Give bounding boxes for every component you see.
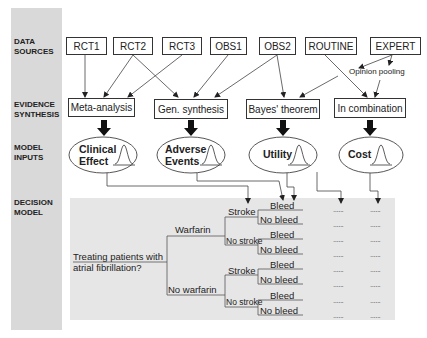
input-utility: Utility	[263, 148, 292, 160]
source-rct3: RCT3	[162, 37, 202, 55]
source-label: OBS2	[264, 41, 291, 52]
leaf-no-bleed: No bleed	[260, 274, 298, 285]
branch-stroke: Stroke	[228, 265, 255, 276]
synthesis-meta-analysis: Meta-analysis	[68, 98, 135, 117]
placeholder-cell: ......	[333, 220, 343, 229]
source-label: EXPERT	[376, 41, 416, 52]
source-label: ROUTINE	[309, 41, 354, 52]
source-label: RCT2	[120, 41, 146, 52]
synthesis-bayes-theorem: Bayes' theorem	[246, 99, 320, 119]
tree-question: Treating patients with atrial fibrillati…	[73, 251, 163, 273]
synthesis-label: In combination	[337, 103, 402, 114]
source-label: OBS1	[215, 41, 242, 52]
leaf-bleed: Bleed	[270, 290, 294, 301]
input-label: Effect	[79, 155, 116, 167]
input-label: Adverse	[165, 143, 206, 155]
input-cost: Cost	[348, 148, 371, 160]
placeholder-cell: ......	[370, 220, 380, 229]
placeholder-cell: ......	[333, 250, 343, 259]
placeholder-cell: ......	[333, 205, 343, 214]
source-rct2: RCT2	[113, 37, 153, 55]
synthesis-in-combination: In combination	[334, 98, 406, 118]
leaf-no-bleed: No bleed	[260, 214, 298, 225]
source-routine: ROUTINE	[305, 37, 357, 55]
leaf-bleed: Bleed	[270, 229, 294, 240]
placeholder-cell: ......	[370, 296, 380, 305]
branch-warfarin: Warfarin	[175, 224, 211, 235]
thick-arrows	[97, 120, 377, 136]
placeholder-cell: ......	[333, 265, 343, 274]
placeholder-cell: ......	[370, 280, 380, 289]
source-expert: EXPERT	[370, 37, 421, 55]
input-adverse-events: Adverse Events	[165, 143, 206, 167]
leaf-bleed: Bleed	[270, 200, 294, 211]
placeholder-cell: ......	[333, 235, 343, 244]
synthesis-label: Bayes' theorem	[248, 104, 317, 115]
source-label: RCT1	[73, 41, 99, 52]
input-clinical-effect: Clinical Effect	[79, 143, 116, 167]
input-label: Events	[165, 155, 206, 167]
synthesis-label: Gen. synthesis	[158, 104, 224, 115]
leaf-bleed: Bleed	[270, 259, 294, 270]
placeholder-cell: ......	[370, 311, 380, 320]
input-label: Clinical	[79, 143, 116, 155]
leaf-no-bleed: No bleed	[260, 244, 298, 255]
question-line: atrial fibrillation?	[73, 262, 163, 273]
branch-no-stroke: No stroke	[226, 236, 262, 246]
source-obs2: OBS2	[259, 37, 296, 55]
placeholder-cell: ......	[333, 280, 343, 289]
evidence-synthesis-diagram: DATA SOURCES EVIDENCE SYNTHESIS MODEL IN…	[0, 0, 427, 338]
placeholder-cell: ......	[333, 311, 343, 320]
leaf-no-bleed: No bleed	[260, 305, 298, 316]
placeholder-cell: ......	[370, 250, 380, 259]
placeholder-cell: ......	[333, 296, 343, 305]
synthesis-label: Meta-analysis	[71, 102, 133, 113]
branch-stroke: Stroke	[228, 206, 255, 217]
source-label: RCT3	[169, 41, 195, 52]
placeholder-cell: ......	[370, 205, 380, 214]
branch-no-warfarin: No warfarin	[168, 284, 217, 295]
source-obs1: OBS1	[210, 37, 247, 55]
synthesis-gen-synthesis: Gen. synthesis	[154, 99, 228, 119]
placeholder-cell: ......	[370, 265, 380, 274]
source-rct1: RCT1	[66, 37, 107, 55]
input-label: Cost	[348, 148, 371, 160]
question-line: Treating patients with	[73, 251, 163, 262]
input-label: Utility	[263, 148, 292, 160]
branch-no-stroke: No stroke	[226, 297, 262, 307]
opinion-pooling-label: Opinion pooling	[349, 67, 405, 76]
placeholder-cell: ......	[370, 235, 380, 244]
